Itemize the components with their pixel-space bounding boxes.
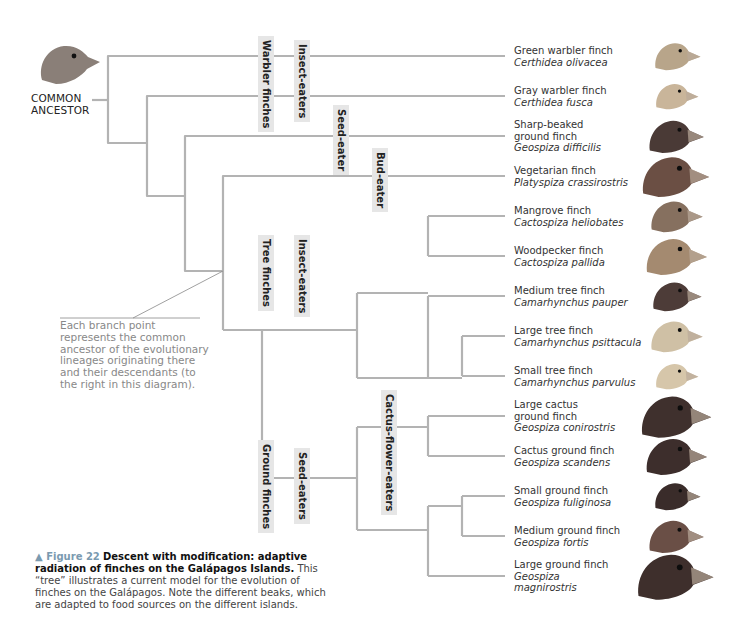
- species-common-name: Large ground finch: [514, 559, 608, 571]
- species-common-name: ground finch: [514, 131, 601, 143]
- species-scientific-name: Geospiza scandens: [514, 457, 614, 469]
- species-common-name: Small ground finch: [514, 485, 611, 497]
- ancestor-label-line1: COMMON: [31, 92, 89, 104]
- species-scientific-name: Camarhynchus pauper: [514, 297, 628, 309]
- species-common-name: Large tree finch: [514, 325, 641, 337]
- species-common-name: Large cactus: [514, 399, 615, 411]
- clade-label-tree-finches: Tree finches: [258, 235, 274, 311]
- finch-head-icon: [654, 481, 702, 515]
- common-ancestor-label: COMMON ANCESTOR: [31, 92, 89, 116]
- species-entry: Woodpecker finchCactospiza pallida: [514, 245, 605, 268]
- clade-label-ground-finches: Ground finches: [258, 440, 274, 533]
- species-scientific-name: Cactospiza pallida: [514, 257, 605, 269]
- species-entry: Vegetarian finchPlatyspiza crassirostris: [514, 165, 628, 188]
- clade-label-cactus-flower-eaters: Cactus-flower-eaters: [381, 390, 397, 515]
- phylogenetic-tree: [0, 0, 738, 632]
- species-entry: Mangrove finchCactospiza heliobates: [514, 205, 623, 228]
- species-entry: Cactus ground finchGeospiza scandens: [514, 445, 614, 468]
- finch-head-icon: [648, 118, 706, 158]
- species-entry: Small tree finchCamarhynchus parvulus: [514, 365, 635, 388]
- species-scientific-name: Camarhynchus psittacula: [514, 337, 641, 349]
- clade-label-warbler-finches: Warbler finches: [258, 36, 274, 132]
- ancestor-label-line2: ANCESTOR: [31, 104, 89, 116]
- clade-label-insect-eaters-warbler: Insect-eaters: [294, 40, 310, 122]
- finch-head-icon: [650, 319, 704, 357]
- species-scientific-name: Geospiza conirostris: [514, 422, 615, 434]
- figure-number: ▲ Figure 22: [35, 551, 100, 562]
- finch-head-icon: [654, 41, 702, 75]
- species-entry: Large ground finchGeospizamagnirostris: [514, 559, 608, 594]
- species-entry: Large cactusground finchGeospiza coniros…: [514, 399, 615, 434]
- clade-label-bud-eater: Bud-eater: [372, 148, 388, 212]
- species-common-name: ground finch: [514, 411, 615, 423]
- finch-head-icon: [645, 236, 709, 280]
- finch-head-icon: [652, 280, 703, 316]
- finch-head-icon: [641, 154, 711, 202]
- common-ancestor-bird-icon: [38, 40, 102, 90]
- species-common-name: Small tree finch: [514, 365, 635, 377]
- species-scientific-name: Geospiza fortis: [514, 537, 620, 549]
- species-entry: Green warbler finchCerthidea olivacea: [514, 45, 613, 68]
- finch-head-icon: [650, 199, 704, 237]
- species-scientific-name: Cactospiza heliobates: [514, 217, 623, 229]
- species-common-name: Sharp-beaked: [514, 119, 601, 131]
- clade-label-insect-eaters-tree: Insect-eaters: [294, 235, 310, 317]
- species-common-name: Cactus ground finch: [514, 445, 614, 457]
- species-entry: Gray warbler finchCerthidea fusca: [514, 85, 607, 108]
- species-common-name: Gray warbler finch: [514, 85, 607, 97]
- species-scientific-name: Platyspiza crassirostris: [514, 177, 628, 189]
- species-scientific-name: Geospiza fuliginosa: [514, 497, 611, 509]
- clade-label-seed-eater: Seed-eater: [333, 105, 349, 175]
- species-scientific-name: Certhidea fusca: [514, 97, 607, 109]
- finch-head-icon: [655, 362, 700, 394]
- species-common-name: Mangrove finch: [514, 205, 623, 217]
- tree-branch: [147, 96, 505, 196]
- species-entry: Sharp-beakedground finchGeospiza diffici…: [514, 119, 601, 154]
- species-scientific-name: Geospiza difficilis: [514, 142, 601, 154]
- species-entry: Small ground finchGeospiza fuliginosa: [514, 485, 611, 508]
- annotation-pointer: [133, 271, 223, 318]
- species-entry: Medium ground finchGeospiza fortis: [514, 525, 620, 548]
- species-scientific-name: Certhidea olivacea: [514, 57, 613, 69]
- finch-head-icon: [636, 551, 716, 605]
- species-common-name: Woodpecker finch: [514, 245, 605, 257]
- species-scientific-name: magnirostris: [514, 582, 608, 594]
- species-entry: Medium tree finchCamarhynchus pauper: [514, 285, 628, 308]
- figure-caption: ▲ Figure 22 Descent with modification: a…: [35, 551, 335, 611]
- branch-point-annotation: Each branch point represents the common …: [60, 320, 210, 391]
- species-common-name: Green warbler finch: [514, 45, 613, 57]
- species-entry: Large tree finchCamarhynchus psittacula: [514, 325, 641, 348]
- species-scientific-name: Camarhynchus parvulus: [514, 377, 635, 389]
- species-common-name: Medium ground finch: [514, 525, 620, 537]
- species-common-name: Vegetarian finch: [514, 165, 628, 177]
- finch-head-icon: [645, 436, 709, 480]
- finch-head-icon: [655, 82, 700, 114]
- clade-label-seed-eaters-ground: Seed-eaters: [294, 448, 310, 524]
- species-scientific-name: Geospiza: [514, 571, 608, 583]
- species-common-name: Medium tree finch: [514, 285, 628, 297]
